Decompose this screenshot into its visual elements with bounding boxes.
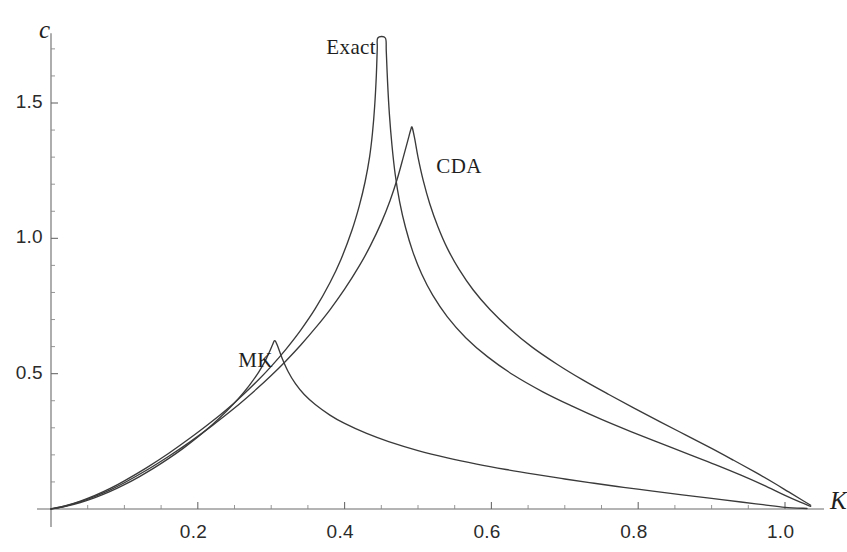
x-tick-label: 0.4 xyxy=(327,521,354,543)
data-curves-group xyxy=(51,36,811,509)
curve-exact xyxy=(51,36,811,509)
curve-mk xyxy=(51,341,807,509)
curve-cda xyxy=(51,127,811,509)
series-annotation-exact: Exact xyxy=(326,35,376,60)
x-tick-label: 0.8 xyxy=(620,521,647,543)
axis-group xyxy=(37,33,824,527)
x-tick-label: 1.0 xyxy=(767,521,794,543)
y-axis-title: c xyxy=(39,16,50,44)
x-tick-label: 0.2 xyxy=(180,521,207,543)
series-annotation-cda: CDA xyxy=(436,154,482,179)
tick-marks-group xyxy=(51,49,785,509)
y-tick-label: 0.5 xyxy=(0,362,43,384)
y-tick-label: 1.0 xyxy=(0,226,43,248)
x-axis-title: K xyxy=(830,487,847,515)
series-annotation-mk: MK xyxy=(238,348,273,373)
x-tick-label: 0.6 xyxy=(473,521,500,543)
y-tick-label: 1.5 xyxy=(0,91,43,113)
